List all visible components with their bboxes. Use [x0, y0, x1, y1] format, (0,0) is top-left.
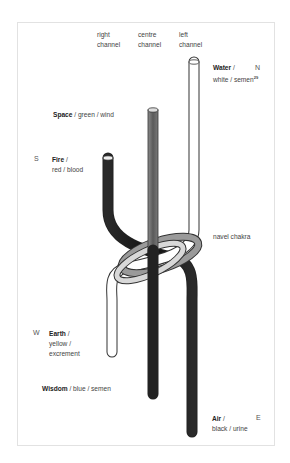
earth-label: Earth / yellow / excrement [49, 329, 80, 359]
space-label: Space / green / wind [53, 110, 114, 120]
navel-chakra-label: navel chakra [213, 232, 250, 242]
direction-south: S [34, 155, 39, 162]
fire-label: Fire / red / blood [52, 155, 83, 175]
air-label: Air / black / urine [212, 414, 248, 434]
direction-north: N [255, 64, 260, 71]
wisdom-label: Wisdom / blue / semen [42, 384, 111, 394]
water-label: Water / white / semen29 [213, 63, 258, 85]
direction-west: W [33, 329, 40, 336]
centre-channel-tube [148, 110, 158, 255]
direction-east: E [256, 414, 261, 421]
